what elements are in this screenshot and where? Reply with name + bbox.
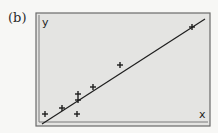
y-axis-label: y	[42, 16, 49, 29]
scatter-plot: y x	[0, 0, 218, 133]
x-axis-label: x	[199, 108, 206, 121]
